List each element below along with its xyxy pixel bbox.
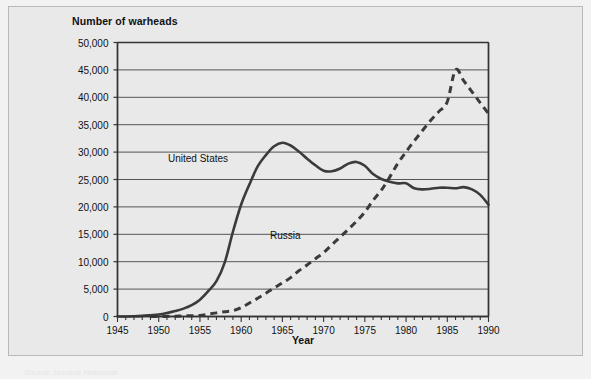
x-axis-tick-label: 1985 <box>436 325 458 336</box>
y-axis-tick-label: 25,000 <box>0 174 109 185</box>
y-axis-tick-label: 15,000 <box>0 229 109 240</box>
chart-svg <box>0 0 591 379</box>
x-axis-tick-label: 1950 <box>148 325 170 336</box>
x-axis-tick-label: 1945 <box>106 325 128 336</box>
x-axis-tick-label: 1955 <box>189 325 211 336</box>
series-label-russia: Russia <box>270 230 301 241</box>
plot-area: 05,00010,00015,00020,00025,00030,00035,0… <box>0 0 591 379</box>
y-axis-tick-label: 20,000 <box>0 201 109 212</box>
series-label-united-states: United States <box>168 153 228 164</box>
y-axis-tick-label: 5,000 <box>0 284 109 295</box>
y-axis-tick-label: 0 <box>0 311 109 322</box>
y-axis-tick-label: 40,000 <box>0 92 109 103</box>
x-axis-tick-label: 1980 <box>395 325 417 336</box>
y-axis-tick-label: 30,000 <box>0 147 109 158</box>
y-axis-tick-label: 35,000 <box>0 119 109 130</box>
y-axis-tick-label: 45,000 <box>0 64 109 75</box>
x-axis-tick-label: 1965 <box>271 325 293 336</box>
x-axis-tick-label: 1970 <box>312 325 334 336</box>
x-axis-tick-label: 1960 <box>230 325 252 336</box>
footer-note: Source: Nuclear Notebook <box>24 368 118 377</box>
y-axis-tick-label: 10,000 <box>0 256 109 267</box>
chart-page: Number of warheads 05,00010,00015,00020,… <box>0 0 591 379</box>
x-axis-title: Year <box>292 334 314 346</box>
y-axis-tick-label: 50,000 <box>0 37 109 48</box>
x-axis-tick-label: 1975 <box>354 325 376 336</box>
x-axis-tick-label: 1990 <box>477 325 499 336</box>
